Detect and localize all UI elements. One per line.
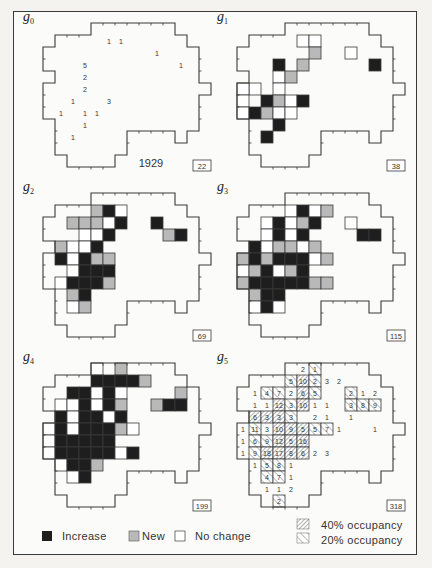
grid-cell-inc [273, 229, 285, 241]
cell-count: 2 [83, 74, 87, 81]
grid-cell-none [91, 229, 103, 241]
grid-cell-none [297, 241, 309, 253]
grid-cell-none [103, 411, 115, 423]
panel-label: g3 [217, 179, 228, 196]
grid-cell-new [115, 363, 127, 375]
grid-cell-new [309, 47, 321, 59]
grid-cell-inc [55, 435, 67, 447]
grid-cell-inc [79, 387, 91, 399]
grid-cell-inc [115, 217, 127, 229]
cell-count: 7 [325, 426, 329, 433]
grid-cell-none [67, 241, 79, 253]
grid-cell-none [67, 301, 79, 313]
panel-subscript: 2 [30, 187, 34, 196]
panel-subscript: 0 [30, 17, 34, 26]
grid-cell-none [261, 241, 273, 253]
panel-label: g4 [23, 349, 34, 366]
cell-count: 1 [71, 134, 75, 141]
grid-cell-inc [285, 277, 297, 289]
count-value: 318 [390, 502, 403, 511]
cell-count: 1 [289, 474, 293, 481]
cell-count: 1 [265, 402, 269, 409]
panel-g0: 11115221311111g0221929 [23, 9, 211, 171]
grid-cell-inc [79, 471, 91, 483]
cell-count: 9 [253, 450, 257, 457]
grid-cell-new [115, 423, 127, 435]
cell-count: 16 [299, 438, 307, 445]
cell-count: 1 [253, 402, 257, 409]
grid-cell-none [273, 71, 285, 83]
cell-count: 10 [299, 402, 307, 409]
cell-count: 1 [325, 402, 329, 409]
grid-cell-inc [175, 229, 187, 241]
cell-count: 1 [119, 38, 123, 45]
occupancy-grid-figure: 11115221311111g0221929g138g269g3115g4199… [0, 0, 432, 568]
grid-cell-new [285, 241, 297, 253]
grid-cell-new [321, 205, 333, 217]
grid-cell-inc [297, 229, 309, 241]
grid-cell-inc [91, 447, 103, 459]
panel-g4: g4199 [23, 349, 211, 511]
cell-count: 3 [349, 402, 353, 409]
grid-cell-none [237, 107, 249, 119]
grid-cell-inc [91, 277, 103, 289]
new-swatch [129, 531, 139, 541]
panel-subscript: 5 [224, 357, 228, 366]
grid-cell-new [285, 265, 297, 277]
grid-cell-new [91, 205, 103, 217]
occ40-swatch [297, 519, 309, 529]
grid-cell-none [237, 83, 249, 95]
grid-cell-inc [261, 131, 273, 143]
grid-cell-new [273, 95, 285, 107]
cell-count: 3 [289, 402, 293, 409]
cell-count: 3 [325, 450, 329, 457]
cell-count: 6 [253, 414, 257, 421]
cell-count: 1 [241, 438, 245, 445]
panel-label: g0 [23, 9, 34, 26]
cell-count: 1 [313, 402, 317, 409]
cell-count: 1 [325, 414, 329, 421]
grid-cell-inc [79, 289, 91, 301]
grid-cell-inc [103, 447, 115, 459]
grid-cell-inc [261, 265, 273, 277]
panel-label: g5 [217, 349, 228, 366]
grid-cell-inc [273, 277, 285, 289]
grid-cell-inc [91, 423, 103, 435]
cell-count: 10 [275, 426, 283, 433]
cell-count: 9 [289, 426, 293, 433]
cell-count: 3 [107, 98, 111, 105]
legend-occ40: 40% occupancy [321, 519, 403, 531]
cell-count: 1 [361, 390, 365, 397]
grid-cell-none [285, 205, 297, 217]
grid-cell-new [55, 241, 67, 253]
cell-count: 12 [275, 402, 283, 409]
grid-cell-none [127, 423, 139, 435]
grid-cell-none [285, 107, 297, 119]
grid-cell-none [261, 229, 273, 241]
grid-cell-none [67, 423, 79, 435]
grid-cell-none [115, 205, 127, 217]
grid-cell-inc [369, 229, 381, 241]
grid-cell-new [237, 277, 249, 289]
grid-cell-inc [79, 411, 91, 423]
grid-cell-inc [103, 229, 115, 241]
grid-cell-none [55, 459, 67, 471]
grid-cell-inc [357, 229, 369, 241]
cell-count: 3 [265, 414, 269, 421]
panel-label: g1 [217, 9, 228, 26]
grid-cell-none [237, 95, 249, 107]
grid-cell-none [309, 205, 321, 217]
grid-cell-new [321, 253, 333, 265]
cell-count: 7 [277, 474, 281, 481]
grid-cell-new [79, 217, 91, 229]
grid-cell-none [297, 35, 309, 47]
panel-label: g2 [23, 179, 34, 196]
grid-cell-none [237, 265, 249, 277]
grid-cell-none [91, 363, 103, 375]
cell-count: 8 [277, 462, 281, 469]
grid-cell-new [103, 277, 115, 289]
grid-cell-none [43, 423, 55, 435]
grid-cell-inc [261, 95, 273, 107]
grid-cell-inc [79, 423, 91, 435]
cell-count: 1 [71, 98, 75, 105]
